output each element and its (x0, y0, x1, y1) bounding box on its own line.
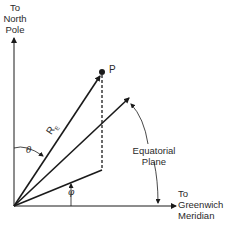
equatorial-plane-arc (131, 104, 148, 144)
greenwich-label-line2: Greenwich (178, 199, 223, 210)
equatorial-plane-label: Equatorial Plane (124, 145, 184, 167)
point-p-dot (99, 69, 105, 75)
equatorial-plane-pointer (154, 162, 158, 203)
phi-label: φ (68, 187, 74, 198)
theta-label: θ (26, 145, 31, 156)
greenwich-label: To Greenwich Meridian (178, 188, 223, 221)
projection-line (14, 170, 102, 206)
radius-vector (14, 76, 100, 206)
greenwich-label-line1: To (178, 188, 223, 199)
greenwich-label-line3: Meridian (178, 210, 223, 221)
north-pole-label-line3: Pole (2, 24, 28, 35)
equatorial-plane-label-line1: Equatorial (124, 145, 184, 156)
north-pole-label: To North Pole (2, 2, 28, 35)
north-pole-label-line1: To (2, 2, 28, 13)
equatorial-plane-label-line2: Plane (124, 156, 184, 167)
north-pole-label-line2: North (2, 13, 28, 24)
spherical-coordinates-diagram: To North Pole P RE θ φ Equatorial Plane … (0, 0, 231, 230)
point-p-label: P (109, 64, 116, 75)
